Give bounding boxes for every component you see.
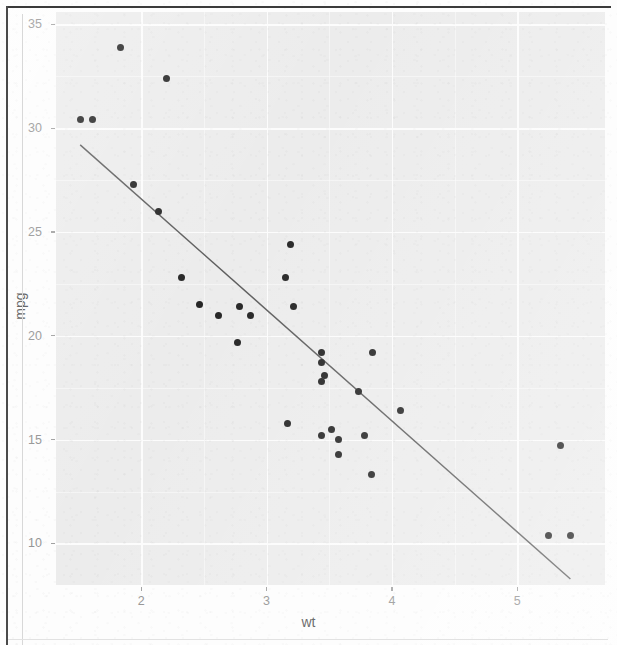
y-tick-mark xyxy=(51,543,55,544)
page-border-left-inner xyxy=(22,14,23,645)
x-tick-mark xyxy=(517,587,518,591)
data-point xyxy=(567,532,574,539)
scanned-page: 101520253035 2345 wt mpg xyxy=(0,0,617,645)
y-tick-mark xyxy=(51,439,55,440)
plot-panel xyxy=(56,12,605,585)
scatter-plot-figure: 101520253035 2345 wt mpg xyxy=(0,0,617,645)
y-tick-mark xyxy=(51,335,55,336)
y-tick-mark xyxy=(51,231,55,232)
page-border-top xyxy=(6,6,611,8)
data-point xyxy=(361,432,368,439)
data-point xyxy=(284,420,291,427)
data-point xyxy=(369,349,376,356)
data-point xyxy=(328,426,335,433)
x-tick-mark xyxy=(141,587,142,591)
x-axis-title: wt xyxy=(0,614,617,630)
page-border-bottom xyxy=(8,639,608,640)
data-point xyxy=(545,532,552,539)
data-point xyxy=(163,75,170,82)
y-axis-title: mpg xyxy=(12,266,28,346)
data-point xyxy=(117,44,124,51)
x-tick-mark xyxy=(391,587,392,591)
data-point xyxy=(287,241,294,248)
data-point xyxy=(318,432,325,439)
data-point xyxy=(335,436,342,443)
data-point xyxy=(234,339,241,346)
regression-line-layer xyxy=(56,12,605,585)
y-tick-mark xyxy=(51,128,55,129)
x-tick-label-2: 2 xyxy=(138,594,145,608)
data-point xyxy=(247,312,254,319)
data-point xyxy=(236,303,243,310)
x-tick-label-5: 5 xyxy=(514,594,521,608)
linear-regression-line xyxy=(80,145,570,579)
data-point xyxy=(335,451,342,458)
x-tick-label-4: 4 xyxy=(388,594,395,608)
data-point xyxy=(355,388,362,395)
x-tick-label-3: 3 xyxy=(263,594,270,608)
data-point xyxy=(130,181,137,188)
y-tick-mark xyxy=(51,24,55,25)
page-border-left xyxy=(6,6,8,645)
x-tick-mark xyxy=(266,587,267,591)
